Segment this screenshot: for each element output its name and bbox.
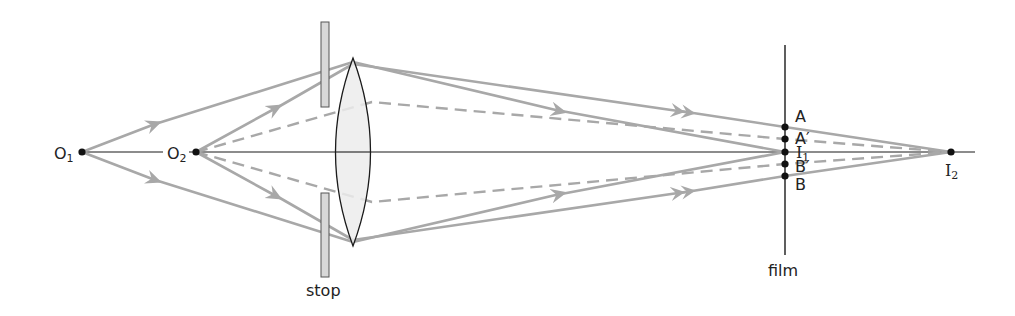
ray-o1-lower-in <box>82 152 155 180</box>
point-b <box>781 172 788 179</box>
point-o2 <box>192 148 199 155</box>
optics-diagram: O1 O2 A A′ I1 B′ B I2 stop film <box>0 0 1015 316</box>
dashed-ray-lower <box>196 152 951 202</box>
label-a: A <box>795 107 806 126</box>
label-b: B <box>795 175 806 194</box>
point-i2 <box>947 148 954 155</box>
label-o1: O1 <box>54 144 74 165</box>
label-film: film <box>768 261 798 280</box>
label-b-prime: B′ <box>795 157 810 176</box>
label-stop: stop <box>306 281 341 300</box>
dashed-ray-upper <box>196 102 951 152</box>
aperture-stop <box>321 22 329 277</box>
point-i1 <box>781 148 788 155</box>
ray-o1-upper-in <box>82 124 155 152</box>
ray-o2-lower-in <box>196 152 276 196</box>
label-i2: I2 <box>945 161 958 182</box>
stop-upper <box>321 22 329 107</box>
point-o1 <box>78 148 85 155</box>
ray-o2-upper-in <box>196 108 276 152</box>
stop-lower <box>321 193 329 277</box>
point-b-prime <box>781 160 788 167</box>
point-a <box>781 123 788 130</box>
point-a-prime <box>781 135 788 142</box>
